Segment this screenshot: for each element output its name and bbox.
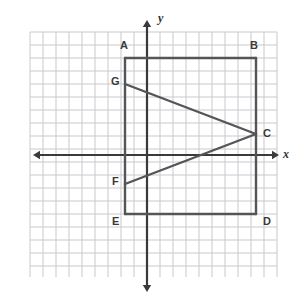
chevron-GC [125, 84, 256, 134]
vertex-label-a: A [120, 40, 128, 51]
vertex-label-g: G [111, 76, 120, 87]
chevron-CF [125, 134, 256, 184]
vertex-label-b: B [250, 40, 258, 51]
x-axis-label: x [283, 148, 289, 160]
y-axis-arrow-down [143, 285, 151, 292]
vertex-label-e: E [112, 216, 119, 227]
y-axis-label: y [158, 12, 163, 24]
vertex-label-f: F [112, 176, 119, 187]
x-axis-arrow-right [272, 151, 279, 159]
axes-group [33, 20, 279, 292]
coordinate-plane-figure: x y ABCDEFG [0, 0, 304, 304]
x-axis-arrow-left [33, 151, 40, 159]
figure-canvas [0, 0, 304, 304]
vertex-label-d: D [263, 216, 271, 227]
y-axis-arrow-up [143, 20, 151, 27]
vertex-label-c: C [263, 128, 271, 139]
